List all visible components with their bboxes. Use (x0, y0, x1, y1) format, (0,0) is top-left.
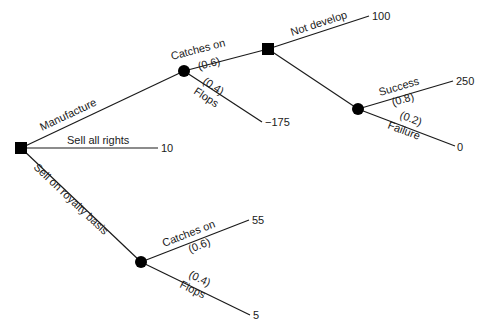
payoff-sell-all-rights: 10 (161, 142, 173, 154)
label-sell-all-rights: Sell all rights (67, 134, 130, 146)
develop-decision-node (262, 43, 274, 55)
label-royalty: Sell on royalty basis (32, 161, 112, 237)
manufacture-chance-node (178, 65, 190, 77)
mfg-catches-on-prob: (0.6) (196, 55, 221, 72)
develop-chance-node (352, 103, 364, 115)
root-decision-node (15, 142, 27, 154)
label-manufacture: Manufacture (38, 96, 98, 133)
royalty-chance-node (135, 256, 147, 268)
edge-develop (268, 49, 358, 109)
decision-tree-diagram: Manufacture Sell all rights Sell on roya… (0, 0, 488, 334)
payoff-roy-flops: 5 (253, 309, 259, 321)
branch-labels: Manufacture Sell all rights Sell on roya… (32, 8, 424, 301)
payoff-not-develop: 100 (372, 10, 390, 22)
payoff-success: 250 (456, 75, 474, 87)
not-develop-text: Not develop (289, 8, 349, 38)
payoff-mfg-flops: −175 (265, 116, 290, 128)
payoff-failure: 0 (457, 141, 463, 153)
payoff-roy-catches-on: 55 (252, 214, 264, 226)
edges (21, 16, 455, 315)
